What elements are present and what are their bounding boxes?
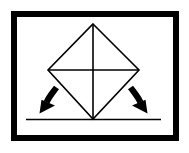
canvas-background [0, 0, 189, 153]
figure-root: Square balanced on a vertex with rotatio… [0, 0, 189, 153]
diagram-canvas [0, 0, 189, 153]
